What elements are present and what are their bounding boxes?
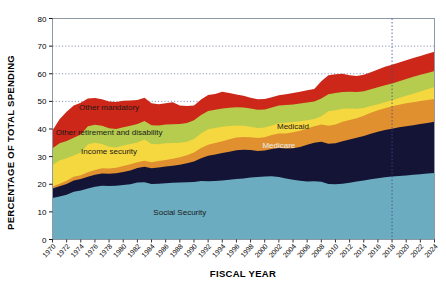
spending-area-chart: 01020304050607080 1970197219741976197819… — [0, 0, 446, 286]
y-tick-label: 50 — [38, 97, 47, 106]
y-tick-label: 40 — [38, 125, 47, 134]
series-label: Social Security — [153, 208, 206, 217]
y-tick-label: 20 — [38, 180, 47, 189]
series-label: Other retirement and disability — [56, 128, 163, 137]
y-tick-label: 80 — [38, 15, 47, 24]
chart-canvas: 01020304050607080 1970197219741976197819… — [0, 0, 446, 286]
y-axis-title: PERCENTAGE OF TOTAL SPENDING — [5, 55, 16, 230]
series-label: Medicaid — [277, 122, 309, 131]
y-tick-label: 0 — [42, 236, 47, 245]
y-tick-label: 10 — [38, 208, 47, 217]
y-tick-label: 70 — [38, 42, 47, 51]
series-label: Income security — [81, 147, 137, 156]
series-label: Medicare — [262, 141, 295, 150]
y-tick-label: 30 — [38, 153, 47, 162]
x-axis-title: FISCAL YEAR — [210, 268, 276, 279]
series-label: Other mandatory — [79, 103, 139, 112]
y-tick-label: 60 — [38, 70, 47, 79]
